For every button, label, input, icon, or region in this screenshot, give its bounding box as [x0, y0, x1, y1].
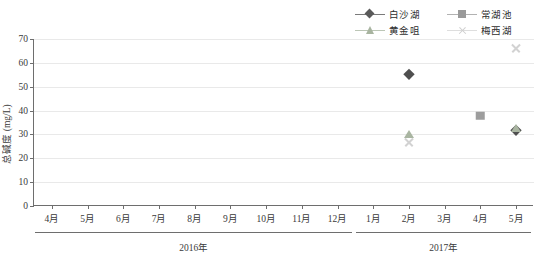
x-tick-label: 6月	[116, 211, 131, 225]
legend-entry-baishahu[interactable]: 白沙湖	[355, 6, 441, 22]
x-tick-label: 8月	[187, 211, 202, 225]
triangle-icon	[366, 26, 374, 34]
x-tick-mark	[230, 205, 231, 209]
x-tick-label: 4月	[44, 211, 59, 225]
x-tick-mark	[266, 205, 267, 209]
legend-entry-changhuchi[interactable]: 常湖池	[447, 6, 533, 22]
square-icon	[458, 10, 466, 18]
gridline	[34, 134, 534, 135]
gridline	[34, 182, 534, 183]
data-point	[511, 124, 521, 132]
x-tick-mark	[373, 205, 374, 209]
gridline	[34, 63, 534, 64]
y-tick-label: 50	[19, 82, 29, 92]
x-tick-label: 3月	[437, 211, 452, 225]
y-tick-mark	[30, 158, 34, 159]
x-tick-mark	[159, 205, 160, 209]
data-point	[404, 68, 415, 79]
y-tick-mark	[30, 134, 34, 135]
legend-sample-changhuchi	[447, 7, 477, 21]
legend-entry-huangjinju[interactable]: 黄金咀	[355, 22, 441, 38]
x-tick-mark	[195, 205, 196, 209]
legend-label-changhuchi: 常湖池	[477, 7, 512, 21]
x-tick-label: 5月	[80, 211, 95, 225]
alkalinity-scatter-chart: 白沙湖 常湖池 黄金咀 梅西湖 总碱度 (mg/L) 0102	[0, 0, 541, 273]
x-tick-label: 12月	[328, 211, 348, 225]
y-tick-label: 10	[19, 177, 29, 187]
y-axis-title: 总碱度 (mg/L)	[0, 74, 13, 194]
legend-sample-meixihu	[447, 23, 477, 37]
year-group-label: 2016年	[35, 240, 352, 254]
data-point	[404, 137, 415, 148]
x-tick-mark	[302, 205, 303, 209]
legend-sample-baishahu	[355, 7, 385, 21]
year-group-rule	[35, 232, 352, 233]
x-tick-label: 2月	[402, 211, 417, 225]
y-tick-label: 60	[19, 58, 29, 68]
y-tick-label: 40	[19, 106, 29, 116]
gridline	[34, 39, 534, 40]
data-point	[476, 112, 485, 121]
x-tick-mark	[409, 205, 410, 209]
y-tick-label: 20	[19, 153, 29, 163]
legend-sample-huangjinju	[355, 23, 385, 37]
gridline	[34, 111, 534, 112]
x-tick-label: 9月	[223, 211, 238, 225]
y-tick-mark	[30, 111, 34, 112]
diamond-icon	[365, 9, 375, 19]
x-tick-mark	[123, 205, 124, 209]
x-tick-mark	[52, 205, 53, 209]
y-tick-mark	[30, 182, 34, 183]
x-tick-label: 11月	[292, 211, 311, 225]
x-tick-label: 7月	[152, 211, 167, 225]
x-tick-mark	[480, 205, 481, 209]
legend-label-huangjinju: 黄金咀	[385, 23, 420, 37]
x-axis-year-groups: 2016年2017年	[33, 232, 533, 266]
x-tick-label: 1月	[366, 211, 381, 225]
year-group-label: 2017年	[356, 240, 531, 254]
cross-icon	[458, 26, 466, 34]
year-group: 2017年	[356, 232, 531, 266]
y-tick-label: 30	[19, 129, 29, 139]
x-tick-label: 5月	[509, 211, 524, 225]
y-tick-mark	[30, 63, 34, 64]
gridline	[34, 87, 534, 88]
legend-label-meixihu: 梅西湖	[477, 23, 512, 37]
y-tick-label: 70	[19, 34, 29, 44]
y-tick-mark	[30, 87, 34, 88]
x-tick-label: 10月	[256, 211, 276, 225]
y-tick-mark	[30, 39, 34, 40]
x-tick-mark	[88, 205, 89, 209]
year-group-rule	[356, 232, 531, 233]
year-group: 2016年	[35, 232, 352, 266]
data-point	[511, 43, 522, 54]
x-tick-label: 4月	[473, 211, 488, 225]
y-tick-mark	[30, 206, 34, 207]
legend-entry-meixihu[interactable]: 梅西湖	[447, 22, 533, 38]
plot-area: 010203040506070 4月5月6月7月8月9月10月11月12月1月2…	[33, 39, 533, 206]
x-tick-mark	[338, 205, 339, 209]
x-tick-mark	[445, 205, 446, 209]
legend-label-baishahu: 白沙湖	[385, 7, 420, 21]
chart-legend: 白沙湖 常湖池 黄金咀 梅西湖	[355, 6, 541, 38]
y-tick-label: 0	[23, 201, 28, 211]
x-tick-mark	[516, 205, 517, 209]
gridline	[34, 158, 534, 159]
